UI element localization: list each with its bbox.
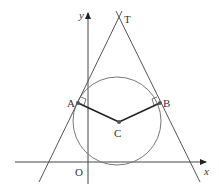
point-C-label: C xyxy=(114,127,121,139)
diagram-canvas: y x O T A B C xyxy=(0,0,219,191)
point-A-label: A xyxy=(67,97,75,109)
radius-CA xyxy=(78,103,119,122)
point-B-label: B xyxy=(163,97,170,109)
x-axis-label: x xyxy=(203,165,209,177)
point-T-label: T xyxy=(124,13,131,25)
point-A xyxy=(76,101,80,105)
right-angle-marker-B xyxy=(152,97,159,105)
origin-label: O xyxy=(75,166,83,178)
radius-CB xyxy=(119,103,160,122)
tangent-line-TA xyxy=(39,11,122,182)
y-axis-label: y xyxy=(78,9,84,21)
point-B xyxy=(158,101,162,105)
point-C xyxy=(117,120,121,124)
geometry-diagram: y x O T A B C xyxy=(0,0,219,191)
tangent-line-TB xyxy=(116,11,200,182)
